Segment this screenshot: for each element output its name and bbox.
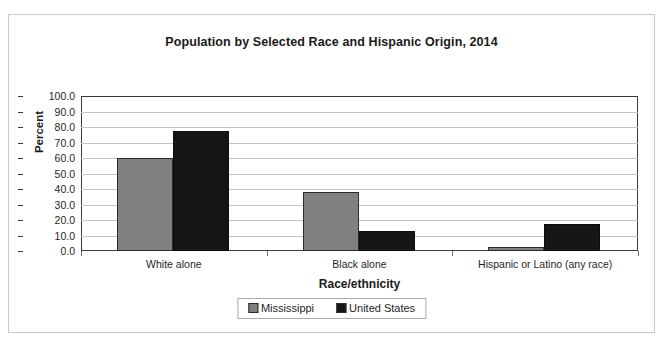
y-axis-tick [18,158,23,159]
x-axis-tick [638,251,639,256]
category-label: White alone [81,258,267,270]
y-axis-tick-label: 80.0 [23,121,75,133]
bar-group [452,96,638,251]
plot-wrapper: Percent 100.090.080.070.060.050.040.030.… [81,96,638,251]
y-axis-tick [18,174,23,175]
y-axis-tick-label: 40.0 [23,183,75,195]
y-axis-tick [18,143,23,144]
x-axis-title: Race/ethnicity [81,277,638,291]
legend-swatch-icon [336,303,346,313]
x-axis-tick [81,251,82,256]
bar-groups [81,96,638,251]
y-axis-tick-label: 50.0 [23,168,75,180]
x-axis-category-labels: White aloneBlack aloneHispanic or Latino… [81,258,638,270]
y-axis-tick-label: 10.0 [23,230,75,242]
legend-swatch-icon [248,303,258,313]
bar-united-states[interactable] [173,131,229,251]
y-axis-tick [18,205,23,206]
bar-united-states[interactable] [544,224,600,251]
y-axis-tick-label: 30.0 [23,199,75,211]
y-axis-tick [18,236,23,237]
y-axis-tick-label: 70.0 [23,137,75,149]
y-axis-tick-label: 90.0 [23,106,75,118]
y-axis-tick-labels: 100.090.080.070.060.050.040.030.020.010.… [23,89,75,258]
legend-item-mississippi[interactable]: Mississippi [248,302,314,314]
top-cut-off-text [10,0,370,7]
x-axis-tick [267,251,268,256]
legend-label: Mississippi [261,302,314,314]
y-axis-tick-label: 60.0 [23,152,75,164]
y-axis-tick-label: 0.0 [23,245,75,257]
y-axis-tick-label: 20.0 [23,214,75,226]
y-axis-tick [18,96,23,97]
bar-united-states[interactable] [359,231,415,251]
y-axis-tick [18,127,23,128]
chart-title: Population by Selected Race and Hispanic… [9,35,654,49]
y-axis-tick-label: 100.0 [23,90,75,102]
legend-item-united-states[interactable]: United States [336,302,415,314]
bar-mississippi[interactable] [117,158,173,251]
category-label: Hispanic or Latino (any race) [452,258,638,270]
y-axis-tick [18,112,23,113]
bar-group [267,96,453,251]
x-axis-ticks [81,251,638,256]
bar-group [81,96,267,251]
y-axis-tick [18,189,23,190]
y-axis-tick [18,251,23,252]
chart-legend: MississippiUnited States [237,298,426,319]
x-axis-tick [452,251,453,256]
y-axis-tick [18,220,23,221]
chart-container: Population by Selected Race and Hispanic… [8,14,655,333]
bar-mississippi[interactable] [303,192,359,251]
category-label: Black alone [267,258,453,270]
legend-label: United States [349,302,415,314]
